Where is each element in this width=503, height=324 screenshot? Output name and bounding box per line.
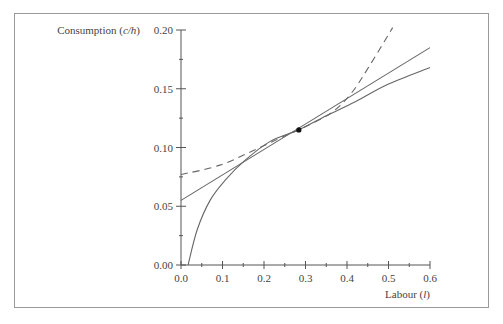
x-tick-label: 0.4 (340, 272, 354, 284)
axes: 0.00.10.20.30.40.50.60.000.050.100.150.2… (154, 24, 438, 284)
series-0-line (188, 68, 430, 265)
x-tick-label: 0.3 (299, 272, 313, 284)
series-1-line (181, 48, 430, 201)
y-tick-label: 0.10 (154, 142, 174, 154)
x-tick-label: 0.2 (257, 272, 271, 284)
y-tick-label: 0.15 (154, 83, 174, 95)
y-tick-label: 0.20 (154, 24, 174, 36)
tangency-point-marker (296, 127, 301, 132)
x-tick-label: 0.6 (423, 272, 437, 284)
x-tick-label: 0.0 (174, 272, 188, 284)
series-group (181, 28, 430, 265)
x-axis-label: Labour (l) (385, 288, 430, 301)
x-tick-label: 0.5 (382, 272, 396, 284)
y-axis-label: Consumption (c/h) (57, 24, 140, 37)
series-2-line (181, 28, 393, 175)
y-tick-label: 0.05 (154, 200, 174, 212)
y-tick-label: 0.00 (154, 259, 174, 271)
x-tick-label: 0.1 (216, 272, 230, 284)
chart-plot: 0.00.10.20.30.40.50.60.000.050.100.150.2… (0, 0, 503, 324)
